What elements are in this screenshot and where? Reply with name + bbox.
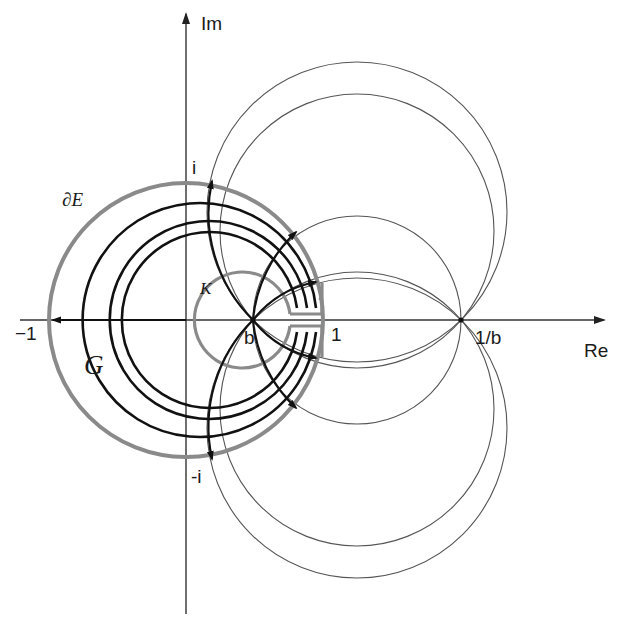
tick-inv-b: 1/b (475, 327, 501, 348)
point-inv-b (458, 317, 463, 322)
complex-plane-diagram: Im Re −1 1 b 1/b i -i ∂E K G (0, 0, 620, 629)
tick-i: i (192, 157, 196, 178)
tick-minus-i: -i (191, 466, 202, 487)
tick-minus-one: −1 (15, 323, 37, 344)
label-K: K (199, 279, 213, 298)
tick-b: b (244, 327, 255, 348)
tick-one: 1 (331, 324, 342, 345)
im-axis-label: Im (201, 13, 222, 34)
lower-large-circle (207, 278, 507, 578)
point-b (250, 317, 255, 322)
label-G: G (84, 350, 104, 380)
upper-large-circle (207, 62, 507, 362)
re-axis-label: Re (584, 340, 608, 361)
label-boundary-E: ∂E (62, 189, 83, 210)
arrow-to-i (208, 181, 253, 320)
